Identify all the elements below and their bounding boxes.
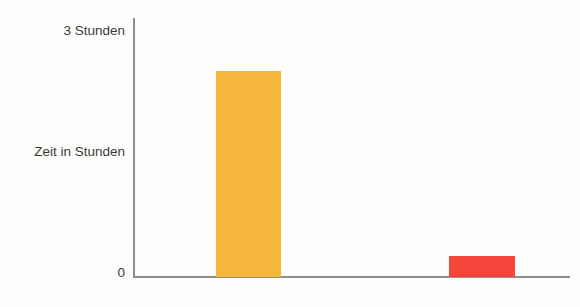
y-axis-tick-label-zero: 0 bbox=[0, 266, 125, 280]
y-axis-line bbox=[133, 18, 135, 277]
y-axis-tick-label-top: 3 Stunden bbox=[0, 24, 125, 38]
bar-chart: 3 Stunden Zeit in Stunden 0 bbox=[0, 0, 580, 307]
bar-series-2 bbox=[449, 256, 515, 277]
bar-series-1 bbox=[216, 71, 281, 277]
y-axis-title: Zeit in Stunden bbox=[0, 145, 125, 159]
